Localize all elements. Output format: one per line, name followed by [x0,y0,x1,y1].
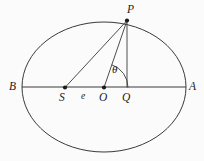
point-dot-p [125,18,129,22]
label-vertex-left: B [9,81,16,93]
label-point-p: P [127,4,134,16]
label-foot: Q [122,92,130,104]
point-dot-focus [63,85,67,89]
label-center: O [99,92,107,104]
label-eccentricity: e [81,92,85,102]
ellipse-figure: B A S e O Q P θ [0,0,204,161]
point-dot-center [102,85,106,89]
ellipse-diagram-canvas [0,0,204,161]
label-focus: S [59,92,65,104]
focal-radius-line [65,21,127,88]
label-angle-theta: θ [112,64,117,75]
center-radius-line [104,21,127,88]
label-vertex-right: A [189,81,196,93]
